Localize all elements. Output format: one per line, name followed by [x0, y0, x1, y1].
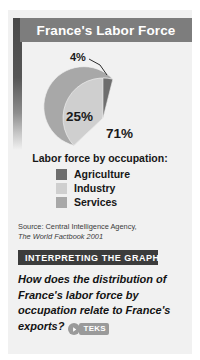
pie-label-industry: 25% — [66, 109, 93, 124]
legend-swatch-industry — [56, 183, 67, 194]
pie-label-services: 71% — [106, 126, 133, 141]
legend-swatch-services — [56, 197, 67, 208]
page-title: France's Labor Force — [37, 23, 176, 38]
legend-label-agriculture: Agriculture — [74, 168, 130, 181]
interpreting-heading: INTERPRETING THE GRAPH — [25, 253, 160, 263]
legend-item-services: Services — [56, 196, 192, 209]
teks-badge[interactable]: TEKS — [68, 323, 109, 335]
legend: Labor force by occupation: Agriculture I… — [8, 152, 192, 210]
interpreting-the-graph-bar: INTERPRETING THE GRAPH — [18, 250, 158, 265]
legend-item-agriculture: Agriculture — [56, 168, 192, 181]
pie-chart-svg: 4% 25% 71% — [8, 44, 192, 154]
source-line-1: Source: Central Intelligence Agency, — [18, 222, 186, 232]
source-citation: Source: Central Intelligence Agency, The… — [18, 222, 186, 242]
pie-chart: 4% 25% 71% — [8, 44, 192, 154]
legend-label-industry: Industry — [74, 182, 115, 195]
legend-label-services: Services — [74, 196, 117, 209]
teks-badge-label[interactable]: TEKS — [79, 323, 109, 335]
card-title-bar: France's Labor Force — [20, 18, 192, 42]
pie-label-agriculture: 4% — [70, 51, 86, 63]
legend-item-industry: Industry — [56, 182, 192, 195]
source-line-2: The World Factbook 2001 — [18, 232, 186, 242]
pie-slice-agriculture — [103, 78, 113, 118]
interpreting-question-block: How does the distribution of France's la… — [18, 272, 190, 335]
graph-card: France's Labor Force 4% 25% 71% Labor fo… — [8, 10, 192, 354]
legend-swatch-agriculture — [56, 169, 67, 180]
legend-title: Labor force by occupation: — [8, 152, 192, 164]
